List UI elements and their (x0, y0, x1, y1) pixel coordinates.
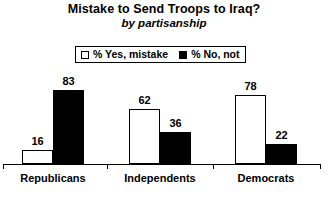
plot-area: 168362367822 (0, 64, 328, 165)
legend-item-yes: % Yes, mistake (81, 49, 168, 60)
bar-republicans-yes (22, 150, 53, 164)
legend-label-no: % No, not (191, 49, 239, 60)
axis-tick (3, 164, 4, 169)
axis-tick (107, 164, 108, 169)
bar-value-label: 83 (53, 76, 84, 87)
filled-square-swatch (179, 51, 187, 59)
bar-republicans-no (53, 90, 84, 164)
bar-democrats-yes (235, 95, 266, 164)
axis-tick (213, 164, 214, 169)
bar-value-label: 78 (235, 81, 266, 92)
legend-item-no: % No, not (179, 49, 239, 60)
bar-independents-yes (129, 109, 160, 164)
bar-independents-no (160, 132, 191, 164)
category-label-independents: Independents (100, 172, 220, 184)
x-axis-line (3, 164, 320, 165)
bar-value-label: 16 (22, 136, 53, 147)
legend-label-yes: % Yes, mistake (93, 49, 168, 60)
bar-value-label: 62 (129, 95, 160, 106)
axis-tick (320, 164, 321, 169)
bar-democrats-no (266, 144, 297, 164)
category-label-republicans: Republicans (0, 172, 113, 184)
bar-value-label: 22 (266, 130, 297, 141)
chart-title: Mistake to Send Troops to Iraq? (0, 2, 328, 16)
chart-legend: % Yes, mistake % No, not (75, 46, 246, 63)
chart-subtitle: by partisanship (0, 17, 328, 29)
bar-value-label: 36 (160, 118, 191, 129)
open-square-swatch (81, 51, 89, 59)
bar-chart: Mistake to Send Troops to Iraq? by parti… (0, 0, 328, 204)
category-label-democrats: Democrats (206, 172, 326, 184)
